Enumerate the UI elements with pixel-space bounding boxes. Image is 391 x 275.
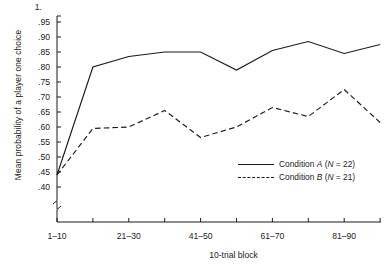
legend-item: Condition A (N = 22)	[238, 158, 355, 171]
legend-n-symbol: N	[327, 172, 333, 182]
data-series-layer	[57, 42, 380, 176]
series-line-condition-a	[57, 42, 380, 176]
x-tick-label: 81–90	[332, 232, 356, 241]
figure: Mean probability of a player one choice …	[0, 0, 391, 275]
x-tick-label: 41–50	[189, 232, 213, 241]
legend-condition-letter: B	[317, 172, 323, 182]
legend-line-swatch	[238, 173, 274, 182]
x-axis-title-text: 10-trial block	[209, 250, 258, 260]
legend-item: Condition B (N = 21)	[238, 171, 355, 184]
legend-label: Condition A (N = 22)	[279, 160, 355, 168]
legend-swatch-stroke	[238, 164, 274, 165]
x-tick-label: 21–30	[117, 232, 141, 241]
legend-condition-letter: A	[317, 159, 323, 169]
legend-line-swatch	[238, 160, 274, 169]
legend-swatch-stroke	[238, 177, 274, 178]
legend-label: Condition B (N = 21)	[279, 173, 355, 181]
x-tick-label: 1–10	[47, 232, 66, 241]
x-axis-title: 10-trial block	[0, 250, 391, 260]
y-axis-break-icon	[53, 201, 61, 210]
axis-lines	[57, 16, 381, 222]
x-axis-ticks	[57, 218, 380, 222]
legend: Condition A (N = 22)Condition B (N = 21)	[238, 158, 355, 184]
x-axis-tick-labels: 1–1021–3041–5061–7081–90	[0, 232, 391, 246]
x-tick-label: 61–70	[260, 232, 284, 241]
y-axis-ticks	[57, 16, 61, 187]
legend-n-symbol: N	[327, 159, 333, 169]
